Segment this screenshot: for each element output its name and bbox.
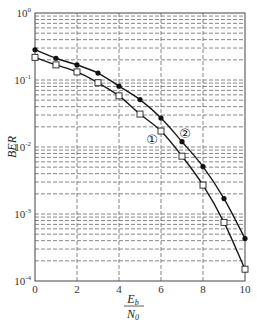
x-tick-label: 0 xyxy=(32,283,38,295)
ber-chart: 10010-110-210-310-4 0246810 ①② BER Eb N0 xyxy=(0,0,257,328)
svg-text:Eb: Eb xyxy=(126,292,138,307)
x-tick-label: 6 xyxy=(158,283,164,295)
y-tick-label: 10-1 xyxy=(14,73,31,86)
square-marker xyxy=(221,219,227,225)
series-line xyxy=(35,50,245,239)
y-tick-label: 10-4 xyxy=(14,274,31,287)
x-tick-label: 2 xyxy=(74,283,80,295)
svg-text:N0: N0 xyxy=(126,307,139,322)
data-series: ①② xyxy=(32,47,248,272)
x-tick-label: 8 xyxy=(200,283,206,295)
circle-marker xyxy=(221,196,226,201)
circle-marker xyxy=(158,115,163,120)
x-axis-ticks: 0246810 xyxy=(32,283,251,295)
x-tick-label: 10 xyxy=(240,283,252,295)
square-marker xyxy=(179,153,185,159)
circle-marker xyxy=(95,70,100,75)
grid-lines xyxy=(35,13,245,281)
svg-text:BER: BER xyxy=(5,135,19,158)
circle-marker xyxy=(74,62,79,67)
x-tick-label: 4 xyxy=(116,283,122,295)
curve-label: ① xyxy=(146,132,158,147)
circle-marker xyxy=(32,47,37,52)
square-marker xyxy=(53,62,59,68)
curve-label: ② xyxy=(179,126,191,141)
y-tick-label: 10-3 xyxy=(14,207,31,220)
circle-marker xyxy=(137,97,142,102)
y-axis-label: BER xyxy=(5,135,19,158)
square-marker xyxy=(242,266,248,272)
square-marker xyxy=(158,128,164,134)
y-tick-label: 100 xyxy=(17,6,32,19)
circle-marker xyxy=(53,56,58,61)
circle-marker xyxy=(242,236,247,241)
circle-marker xyxy=(200,164,205,169)
square-marker xyxy=(116,93,122,99)
series-line xyxy=(35,57,245,269)
square-marker xyxy=(95,80,101,86)
square-marker xyxy=(200,182,206,188)
x-axis-label: Eb N0 xyxy=(124,292,144,322)
circle-marker xyxy=(116,84,121,89)
square-marker xyxy=(74,69,80,75)
square-marker xyxy=(137,111,143,117)
square-marker xyxy=(32,54,38,60)
